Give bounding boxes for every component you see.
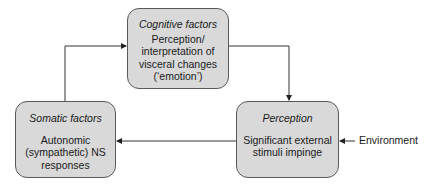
node-somatic-factors: Somatic factors Autonomic (sympathetic) … <box>15 101 116 178</box>
node-body: Significant external stimuli impinge <box>237 134 338 159</box>
node-title: Cognitive factors <box>128 18 228 31</box>
node-title: Perception <box>237 112 338 125</box>
node-cognitive-factors: Cognitive factors Perception/ interpreta… <box>127 8 229 89</box>
environment-label: Environment <box>359 134 418 146</box>
node-body: Autonomic (sympathetic) NS responses <box>16 134 115 172</box>
node-perception: Perception Significant external stimuli … <box>236 101 339 178</box>
node-body: Perception/ interpretation of visceral c… <box>128 33 228 83</box>
node-title: Somatic factors <box>16 112 115 125</box>
